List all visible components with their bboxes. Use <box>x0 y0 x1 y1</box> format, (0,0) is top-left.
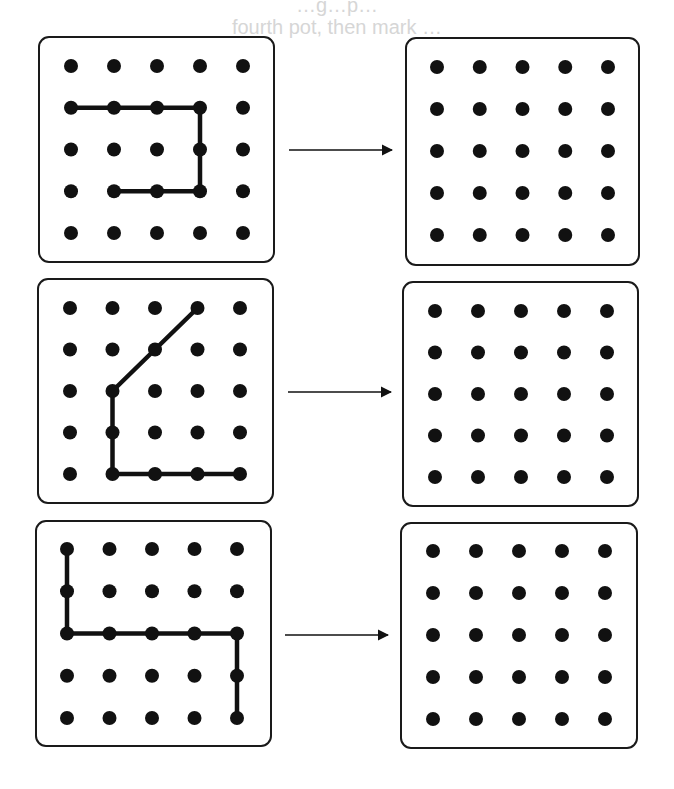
grid-dot <box>555 628 569 642</box>
grid-dot <box>148 384 162 398</box>
grid-dot <box>557 304 571 318</box>
grid-dot <box>600 429 614 443</box>
grid-dot <box>236 143 250 157</box>
grid-dot <box>598 670 612 684</box>
grid-dot <box>428 429 442 443</box>
grid-dot <box>188 542 202 556</box>
grid-dot <box>555 586 569 600</box>
grid-dot <box>516 60 530 74</box>
grid-dot <box>188 711 202 725</box>
grid-dot <box>516 102 530 116</box>
grid-dot <box>236 101 250 115</box>
blank-answer-geoboard <box>401 523 637 748</box>
grid-dot <box>230 627 244 641</box>
grid-dot <box>193 226 207 240</box>
grid-dot <box>233 301 247 315</box>
grid-dot <box>145 669 159 683</box>
exercise-row-1 <box>39 37 639 265</box>
grid-dot <box>514 470 528 484</box>
source-geoboard <box>36 521 271 746</box>
source-geoboard <box>38 279 273 503</box>
grid-dot <box>103 669 117 683</box>
grid-dot <box>60 627 74 641</box>
exercise-row-3 <box>36 521 637 748</box>
grid-dot <box>103 711 117 725</box>
grid-dot <box>233 426 247 440</box>
grid-dot <box>64 101 78 115</box>
grid-dot <box>103 627 117 641</box>
grid-dot <box>230 542 244 556</box>
grid-dot <box>601 60 615 74</box>
grid-dot <box>145 584 159 598</box>
grid-dot <box>512 628 526 642</box>
grid-dot <box>193 59 207 73</box>
grid-dot <box>514 429 528 443</box>
grid-dot <box>188 669 202 683</box>
grid-dot <box>60 584 74 598</box>
grid-dot <box>63 467 77 481</box>
grid-dot <box>150 226 164 240</box>
grid-dot <box>63 384 77 398</box>
grid-dot <box>469 586 483 600</box>
blank-answer-geoboard <box>403 282 638 506</box>
grid-dot <box>512 712 526 726</box>
grid-dot <box>191 301 205 315</box>
grid-dot <box>107 101 121 115</box>
grid-dot <box>555 544 569 558</box>
grid-dot <box>600 304 614 318</box>
grid-dot <box>471 429 485 443</box>
grid-dot <box>145 542 159 556</box>
grid-dot <box>430 144 444 158</box>
grid-dot <box>512 670 526 684</box>
grid-dot <box>426 544 440 558</box>
grid-dot <box>430 102 444 116</box>
grid-dot <box>230 584 244 598</box>
grid-dot <box>191 426 205 440</box>
grid-dot <box>558 60 572 74</box>
grid-dot <box>428 387 442 401</box>
grid-dot <box>512 544 526 558</box>
grid-dot <box>106 384 120 398</box>
grid-dot <box>430 228 444 242</box>
grid-dot <box>473 102 487 116</box>
grid-dot <box>473 60 487 74</box>
grid-dot <box>430 60 444 74</box>
grid-dot <box>150 59 164 73</box>
grid-dot <box>64 226 78 240</box>
grid-dot <box>428 304 442 318</box>
grid-dot <box>236 226 250 240</box>
grid-dot <box>148 426 162 440</box>
grid-dot <box>428 346 442 360</box>
grid-dot <box>106 301 120 315</box>
grid-dot <box>555 670 569 684</box>
grid-dot <box>600 387 614 401</box>
grid-dot <box>469 670 483 684</box>
grid-dot <box>150 143 164 157</box>
grid-dot <box>557 387 571 401</box>
grid-dot <box>233 384 247 398</box>
grid-dot <box>233 467 247 481</box>
grid-dot <box>193 101 207 115</box>
grid-dot <box>557 429 571 443</box>
grid-dot <box>233 343 247 357</box>
grid-dot <box>145 711 159 725</box>
grid-dot <box>60 711 74 725</box>
grid-dot <box>555 712 569 726</box>
grid-dot <box>557 470 571 484</box>
grid-dot <box>106 343 120 357</box>
grid-dot <box>471 387 485 401</box>
grid-dot <box>514 346 528 360</box>
grid-dot <box>148 301 162 315</box>
grid-dot <box>558 144 572 158</box>
grid-dot <box>601 102 615 116</box>
grid-dot <box>473 186 487 200</box>
grid-dot <box>469 628 483 642</box>
grid-dot <box>230 669 244 683</box>
grid-dot <box>558 228 572 242</box>
grid-dot <box>512 586 526 600</box>
grid-dot <box>426 628 440 642</box>
grid-dot <box>64 59 78 73</box>
grid-dot <box>107 59 121 73</box>
grid-dot <box>150 184 164 198</box>
grid-dot <box>516 144 530 158</box>
